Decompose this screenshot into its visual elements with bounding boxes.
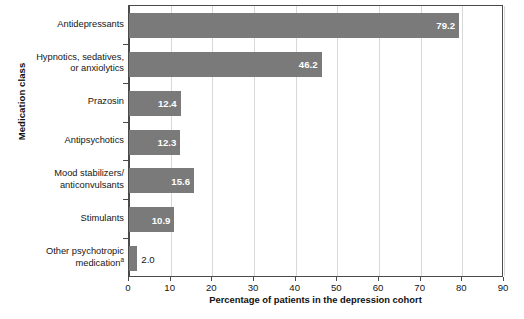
y-axis-tick [123, 83, 129, 84]
category-label: Prazosin [14, 96, 124, 108]
category-label: Antipsychotics [14, 135, 124, 147]
bar-value-label: 79.2 [429, 20, 455, 31]
x-axis-title: Percentage of patients in the depression… [128, 294, 503, 305]
gridline-90 [504, 6, 505, 276]
x-axis-tick-label: 90 [483, 282, 523, 293]
y-axis-tick [123, 238, 129, 239]
category-label: Antidepressants [14, 19, 124, 31]
x-axis-tick [253, 277, 254, 281]
bar-row: 12.3 [129, 130, 502, 155]
x-axis-tick [503, 277, 504, 281]
bar-value-label: 12.4 [151, 98, 177, 109]
x-axis-tick [336, 277, 337, 281]
x-axis-tick [378, 277, 379, 281]
footnote-clipped [8, 311, 338, 319]
category-label: Hypnotics, sedatives,or anxiolytics [14, 52, 124, 75]
y-axis-tick [123, 122, 129, 123]
bar-value-label: 12.3 [150, 137, 176, 148]
bar-row: 10.9 [129, 207, 502, 232]
x-axis-tick [295, 277, 296, 281]
bar-value-label: 46.2 [292, 59, 318, 70]
bar[interactable] [129, 13, 459, 38]
x-axis-tick [461, 277, 462, 281]
category-label: Stimulants [14, 213, 124, 225]
bar[interactable] [129, 246, 137, 271]
y-axis-tick [123, 160, 129, 161]
bar-value-label: 15.6 [164, 175, 190, 186]
x-axis-tick [170, 277, 171, 281]
bar-row: 2.0 [129, 246, 502, 271]
x-axis-tick-label: 60 [358, 282, 398, 293]
bar-row: 15.6 [129, 168, 502, 193]
category-label: Other psychotropicmedicationa [14, 246, 124, 269]
x-axis-tick [211, 277, 212, 281]
plot-area: 79.246.212.412.315.610.92.0 [128, 5, 503, 277]
x-axis-tick-label: 40 [275, 282, 315, 293]
x-axis-tick-label: 30 [233, 282, 273, 293]
bar-row: 46.2 [129, 52, 502, 77]
x-axis-tick-label: 20 [191, 282, 231, 293]
x-axis-tick-label: 80 [441, 282, 481, 293]
bar-row: 79.2 [129, 13, 502, 38]
category-label-column: AntidepressantsHypnotics, sedatives,or a… [14, 5, 124, 277]
x-axis-tick-label: 70 [400, 282, 440, 293]
x-axis-tick-label: 0 [108, 282, 148, 293]
bar-chart: Medication class AntidepressantsHypnotic… [0, 0, 524, 319]
x-axis-tick [420, 277, 421, 281]
bar-value-label: 10.9 [144, 214, 170, 225]
category-label: Mood stabilizers/anticonvulsants [14, 168, 124, 191]
y-axis-tick [123, 44, 129, 45]
x-axis-tick-label: 50 [316, 282, 356, 293]
footnote-marker: a [120, 255, 124, 262]
bar-value-label: 2.0 [141, 253, 154, 264]
y-axis-tick [123, 199, 129, 200]
x-axis-tick-label: 10 [150, 282, 190, 293]
x-axis-tick [128, 277, 129, 281]
plot-inner: 79.246.212.412.315.610.92.0 [129, 6, 502, 276]
bar-row: 12.4 [129, 91, 502, 116]
